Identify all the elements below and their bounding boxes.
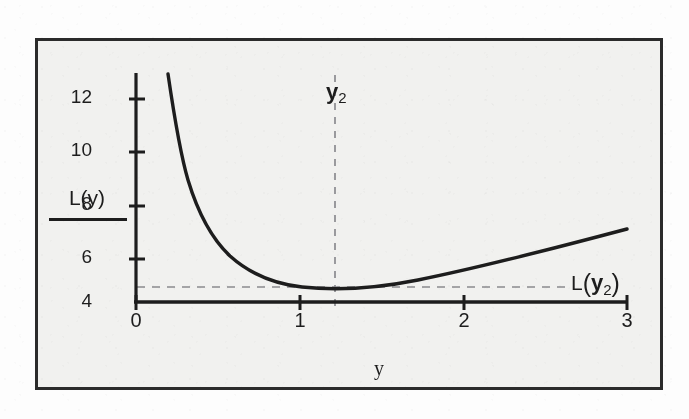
y-tick-label-10: 10 <box>58 139 92 161</box>
x-tick-label-3: 3 <box>610 309 644 332</box>
y-axis-title-underline <box>49 218 127 221</box>
x-tick-label-2: 2 <box>447 309 481 332</box>
plot-surface <box>38 41 660 387</box>
plot-svg <box>38 41 660 387</box>
minimum-value-argument: y <box>591 270 603 295</box>
minimum-value-subscript: 2 <box>603 281 611 298</box>
minimiser-label-base: y <box>326 79 338 104</box>
minimum-value-prefix: L <box>571 271 583 294</box>
minimiser-label-y2: y2 <box>326 79 347 106</box>
y-axis-base-label-4: 4 <box>58 290 92 312</box>
y-axis-title: L(y) <box>50 186 124 210</box>
x-axis-title: y <box>374 357 384 380</box>
minimum-value-open-paren: ( <box>583 269 591 297</box>
minimum-value-label: L(y2) <box>571 269 620 298</box>
figure-frame: 12 10 8 6 4 0 1 2 3 L(y) y y2 L(y2) <box>35 38 663 390</box>
x-tick-label-1: 1 <box>283 309 317 332</box>
minimiser-label-subscript: 2 <box>338 89 346 106</box>
loss-curve <box>168 74 627 289</box>
x-tick-label-0: 0 <box>119 309 153 332</box>
y-tick-label-12: 12 <box>58 86 92 108</box>
y-tick-label-6: 6 <box>58 246 92 268</box>
scanned-figure-page: 12 10 8 6 4 0 1 2 3 L(y) y y2 L(y2) <box>0 0 689 419</box>
minimum-value-close-paren: ) <box>612 269 620 297</box>
